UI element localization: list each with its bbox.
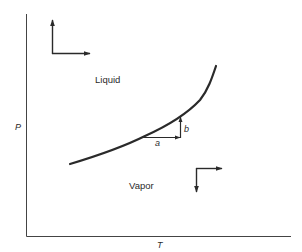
- liquid-direction-indicator: [52, 20, 90, 54]
- coexistence-curve: [70, 66, 216, 164]
- y-axis-label: P: [15, 123, 21, 132]
- phase-diagram-canvas: [0, 0, 302, 252]
- vapor-region-label: Vapor: [129, 181, 154, 191]
- vector-b-label: b: [184, 125, 189, 134]
- x-axis-label: T: [157, 241, 163, 250]
- liquid-region-label: Liquid: [95, 75, 120, 85]
- axes: [27, 14, 292, 237]
- vapor-direction-indicator: [196, 168, 222, 192]
- vector-a-label: a: [155, 139, 160, 148]
